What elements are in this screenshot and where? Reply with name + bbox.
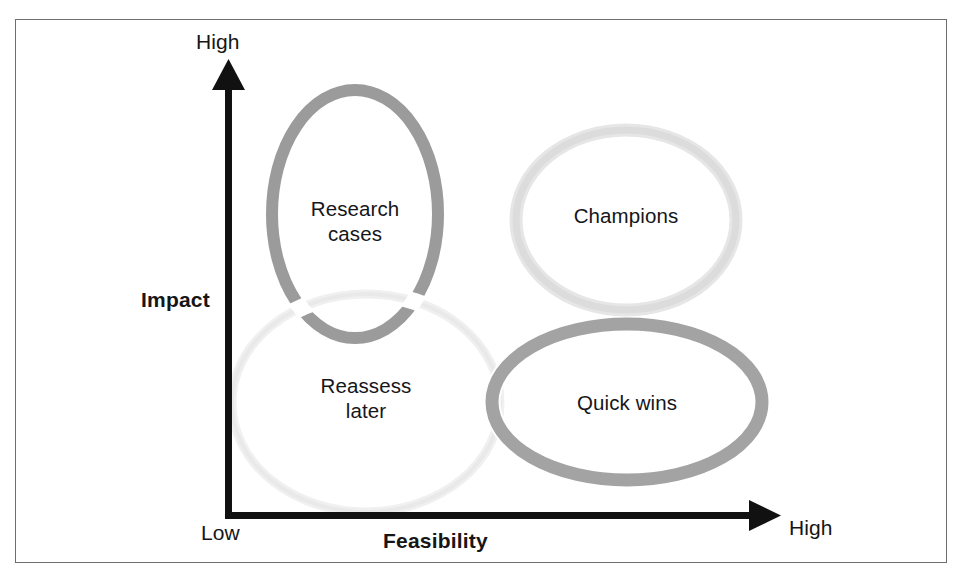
bubble-label-champions: Champions: [574, 203, 679, 228]
x-axis-low-label: Low: [201, 521, 240, 545]
x-axis-high-label: High: [789, 516, 833, 540]
x-axis-title: Feasibility: [383, 529, 488, 553]
bubble-label-quick-wins: Quick wins: [577, 390, 677, 415]
bubble-label-reassess-later: Reassess later: [321, 373, 412, 423]
bubble-label-research-cases: Research cases: [311, 196, 400, 246]
y-axis-high-label: High: [196, 30, 240, 54]
figure-root: High Impact Low Feasibility High Researc…: [0, 0, 966, 579]
y-axis-title: Impact: [141, 288, 210, 312]
